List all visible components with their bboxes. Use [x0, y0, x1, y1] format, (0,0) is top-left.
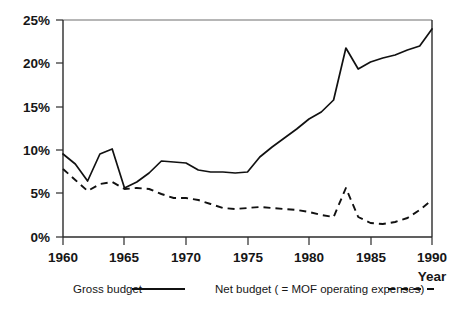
- x-tick-label-1975: 1975: [233, 250, 264, 265]
- x-axis-title: Year: [418, 269, 447, 284]
- series-line-net-budget: [63, 169, 432, 224]
- y-tick-label-5: 5%: [30, 186, 50, 201]
- y-tick-label-10: 10%: [23, 143, 50, 158]
- x-axis-ticks: [63, 237, 432, 245]
- y-tick-label-20: 20%: [23, 56, 50, 71]
- y-tick-label-15: 15%: [23, 100, 50, 115]
- chart-legend: Gross budget Net budget ( = MOF operatin…: [73, 283, 436, 295]
- y-tick-label-0: 0%: [30, 230, 50, 245]
- x-tick-label-1980: 1980: [294, 250, 324, 265]
- plot-frame: [63, 20, 432, 237]
- chart-figure: 25% 20% 15% 10% 5% 0% 1960 1965 1970 197…: [0, 0, 463, 310]
- y-axis-ticks: [56, 20, 63, 237]
- y-axis-tick-labels: 25% 20% 15% 10% 5% 0%: [23, 13, 50, 245]
- x-axis-tick-labels: 1960 1965 1970 1975 1980 1985 1990: [48, 250, 447, 265]
- chart-canvas: 25% 20% 15% 10% 5% 0% 1960 1965 1970 197…: [0, 0, 463, 310]
- x-tick-label-1960: 1960: [48, 250, 78, 265]
- series-line-gross-budget: [63, 29, 432, 188]
- x-tick-label-1970: 1970: [171, 250, 201, 265]
- x-tick-label-1965: 1965: [109, 250, 140, 265]
- x-tick-label-1990: 1990: [417, 250, 447, 265]
- y-tick-label-25: 25%: [23, 13, 50, 28]
- x-tick-label-1985: 1985: [356, 250, 387, 265]
